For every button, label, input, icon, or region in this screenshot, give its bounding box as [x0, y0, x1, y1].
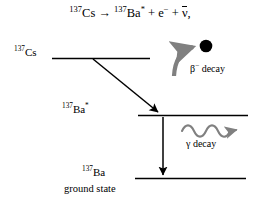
decay-scheme-figure: 137Cs → 137Ba* + e− + ν,	[0, 0, 260, 209]
emitted-electron-dot	[200, 40, 213, 53]
decay-scheme-graphics	[0, 0, 260, 209]
beta-decay-label: β− decay	[190, 63, 225, 74]
level-label-ba-137-excited: 137Ba*	[62, 103, 89, 115]
gamma-decay-label: γ decay	[186, 139, 216, 149]
ground-state-sublabel: ground state	[64, 184, 116, 195]
level-label-ba-137-excited-marker: *	[85, 102, 89, 110]
level-label-ba-137-excited-mass: 137	[62, 102, 73, 110]
beta-decay-text: decay	[202, 63, 225, 74]
beta-charge: −	[195, 62, 199, 70]
level-label-cs-137: 137Cs	[14, 46, 37, 58]
gamma-decay-text: decay	[193, 138, 216, 149]
beta-decay-arrow	[93, 59, 158, 112]
level-label-cs-137-mass: 137	[14, 45, 25, 53]
level-label-ba-137-ground: 137Ba	[82, 166, 105, 178]
level-label-ba-137-ground-mass: 137	[82, 165, 93, 173]
gamma-symbol: γ	[186, 138, 190, 149]
level-label-ba-137-ground-symbol: Ba	[93, 166, 105, 178]
level-label-ba-137-excited-symbol: Ba	[73, 103, 85, 115]
photon-wavy-arrow	[182, 125, 236, 136]
level-label-cs-137-symbol: Cs	[25, 46, 37, 58]
